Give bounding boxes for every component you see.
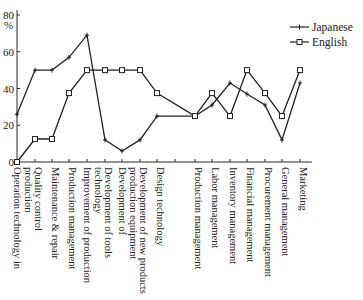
x-axis-category-labels: Operation technology inproductionQuality… bbox=[12, 167, 309, 294]
x-category-label: Quality control bbox=[33, 167, 44, 231]
chart-axes bbox=[17, 10, 312, 162]
square-marker-icon bbox=[298, 68, 303, 73]
x-category-label: technology bbox=[93, 167, 104, 214]
legend-label-japanese: Japanese bbox=[312, 21, 353, 34]
square-marker-icon bbox=[33, 137, 38, 142]
line-chart: 020406080 % Operation technology inprodu… bbox=[0, 0, 363, 300]
y-tick-label: 60 bbox=[3, 46, 15, 58]
square-marker-icon bbox=[138, 68, 143, 73]
square-marker-icon bbox=[297, 40, 302, 45]
x-category-label: Development of bbox=[117, 167, 128, 235]
square-marker-icon bbox=[263, 91, 268, 96]
square-marker-icon bbox=[85, 68, 90, 73]
square-marker-icon bbox=[155, 91, 160, 96]
x-category-label: production equipment bbox=[128, 167, 139, 260]
y-tick-label: 40 bbox=[3, 83, 15, 95]
x-category-label: Improvement of production bbox=[82, 167, 93, 284]
square-marker-icon bbox=[50, 137, 55, 142]
square-marker-icon bbox=[210, 91, 215, 96]
legend-item-english: English bbox=[290, 36, 347, 49]
chart-series bbox=[15, 33, 303, 165]
chart-legend: Japanese English bbox=[290, 21, 353, 49]
x-category-label: Financial management bbox=[245, 167, 256, 262]
x-category-label: Inventory management bbox=[228, 167, 239, 264]
y-tick-label: 20 bbox=[3, 119, 15, 131]
square-marker-icon bbox=[120, 68, 125, 73]
x-category-label: Production management bbox=[67, 167, 78, 269]
x-category-label: Labor management bbox=[210, 167, 221, 248]
square-marker-icon bbox=[103, 68, 108, 73]
x-category-label: Procurement management bbox=[263, 167, 274, 277]
x-category-label: Development of new products bbox=[138, 167, 149, 294]
square-marker-icon bbox=[280, 114, 285, 119]
x-category-label: Design technology bbox=[155, 167, 166, 247]
square-marker-icon bbox=[193, 114, 198, 119]
square-marker-icon bbox=[67, 91, 72, 96]
x-category-label: Marketing bbox=[298, 167, 309, 211]
x-category-label: Maintenance & repair bbox=[50, 167, 61, 260]
x-category-label: Production management bbox=[193, 167, 204, 269]
square-marker-icon bbox=[228, 114, 233, 119]
y-axis-unit-label: % bbox=[4, 19, 13, 31]
x-category-label: production bbox=[23, 167, 34, 213]
square-marker-icon bbox=[245, 68, 250, 73]
x-category-label: Development of tools bbox=[103, 167, 114, 258]
legend-item-japanese: Japanese bbox=[290, 21, 353, 34]
x-category-label: General management bbox=[280, 167, 291, 257]
square-marker-icon bbox=[15, 160, 20, 165]
x-category-label: Operation technology in bbox=[12, 167, 23, 270]
legend-label-english: English bbox=[312, 36, 347, 49]
